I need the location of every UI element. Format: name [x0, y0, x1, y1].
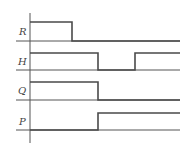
waveform-q	[30, 82, 180, 100]
signal-label-p: P	[18, 116, 26, 127]
signal-label-r: R	[18, 26, 27, 37]
timing-diagram: R H Q P	[0, 0, 189, 145]
waveform-r	[30, 22, 180, 41]
waveform-h	[30, 53, 180, 70]
signal-label-q: Q	[18, 85, 26, 96]
waveforms	[30, 22, 180, 130]
waveform-p	[30, 113, 180, 130]
signal-label-h: H	[17, 56, 27, 67]
